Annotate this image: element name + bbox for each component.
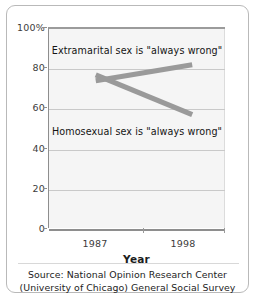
- plot-area: Extramarital sex is "always wrong" Homos…: [48, 27, 225, 228]
- y-tick-label: 40: [9, 144, 45, 154]
- y-tick-mark: [43, 228, 47, 229]
- x-tick-label-1987: 1987: [70, 239, 120, 249]
- y-tick-label: 60: [9, 103, 45, 113]
- series-line-extramarital: [96, 65, 192, 81]
- y-tick-label: 80: [9, 63, 45, 73]
- y-tick-mark: [43, 148, 47, 149]
- y-tick-label: 0: [9, 224, 45, 234]
- y-tick-label: 20: [9, 184, 45, 194]
- x-tick-label-1998: 1998: [158, 239, 208, 249]
- source-note: Source: National Opinion Research Center…: [7, 269, 248, 294]
- x-tick-mark: [224, 228, 225, 233]
- y-axis: 100% 80 60 40 20 0: [7, 27, 45, 228]
- chart-figure: 100% 80 60 40 20 0 Extramarital sex is "…: [6, 5, 249, 293]
- y-tick-mark: [43, 27, 47, 28]
- y-tick-label: 100%: [9, 23, 45, 33]
- source-divider: [18, 263, 239, 264]
- source-line-1: Source: National Opinion Research Center: [7, 269, 248, 282]
- y-tick-mark: [43, 188, 47, 189]
- y-tick-mark: [43, 67, 47, 68]
- source-line-2: (University of Chicago) General Social S…: [7, 282, 248, 295]
- annotation-extramarital: Extramarital sex is "always wrong": [52, 46, 223, 56]
- annotation-homosexual: Homosexual sex is "always wrong": [52, 127, 222, 137]
- y-tick-mark: [43, 107, 47, 108]
- x-tick-mark: [143, 228, 144, 233]
